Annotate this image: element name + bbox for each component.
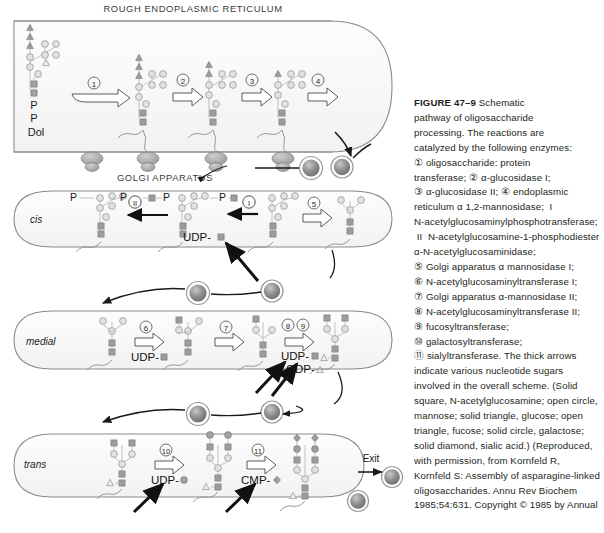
dolichol-p2-label: P — [30, 112, 37, 124]
cis-to-medial-curve — [330, 250, 335, 278]
caption-body: Schematic pathway of oligosaccharide pro… — [414, 97, 600, 516]
cis-phosphate-1: P — [70, 191, 77, 203]
svg-text:10: 10 — [162, 447, 170, 456]
svg-text:6: 6 — [144, 324, 149, 333]
golgi-title: GOLGI APPARATUS — [117, 172, 213, 183]
figure-number: FIGURE 47–9 — [414, 97, 476, 108]
svg-text:2: 2 — [181, 77, 186, 86]
svg-text:8: 8 — [286, 322, 291, 331]
er-title: ROUGH ENDOPLASMIC RETICULUM — [103, 3, 282, 14]
exit-label: Exit — [363, 453, 380, 464]
svg-text:7: 7 — [224, 324, 229, 333]
cis-udp-label: UDP- — [183, 231, 211, 243]
figure-caption: FIGURE 47–9 Schematic pathway of oligosa… — [414, 96, 604, 516]
svg-text:3: 3 — [250, 77, 255, 86]
cis-label: cis — [30, 214, 42, 225]
dolichol-label: Dol — [28, 126, 45, 138]
trans-udp-label: UDP- — [151, 474, 179, 486]
svg-text:I: I — [248, 199, 250, 208]
figure-page: ROUGH ENDOPLASMIC RETICULUM GOLGI APPARA… — [0, 0, 604, 533]
medial-to-trans-curve — [334, 372, 342, 404]
transport-vesicle-group-3 — [103, 401, 303, 426]
transport-vesicle-group-2 — [103, 280, 283, 305]
svg-text:11: 11 — [254, 447, 262, 456]
trans-cmp-label: CMP- — [241, 474, 271, 486]
trans-label: trans — [24, 459, 46, 470]
dolichol-p1-label: P — [30, 99, 37, 111]
svg-text:1: 1 — [92, 80, 97, 89]
figure-diagram: ROUGH ENDOPLASMIC RETICULUM GOLGI APPARA… — [0, 0, 410, 533]
svg-text:9: 9 — [301, 322, 306, 331]
medial-udp-label-2: UDP- — [281, 350, 309, 362]
trans-golgi-compartment — [14, 434, 364, 497]
medial-udp-label-1: UDP- — [131, 351, 159, 363]
cis-phosphate-4: P — [219, 191, 226, 203]
medial-label: medial — [26, 336, 56, 347]
caption-text: FIGURE 47–9 Schematic pathway of oligosa… — [414, 96, 604, 516]
cis-phosphate-2: P — [120, 191, 127, 203]
svg-text:5: 5 — [312, 200, 317, 209]
svg-text:II: II — [133, 199, 137, 208]
svg-text:4: 4 — [316, 77, 321, 86]
cis-phosphate-3: P — [163, 191, 170, 203]
